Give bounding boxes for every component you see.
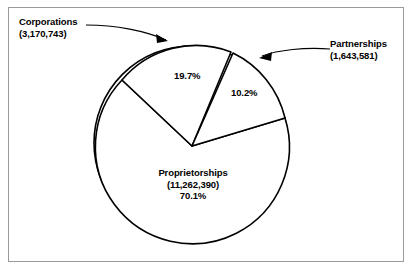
partnerships-count: (1,643,581)	[330, 50, 387, 62]
partnerships-callout: Partnerships (1,643,581)	[330, 38, 387, 61]
corporations-percent-label: 19.7%	[174, 70, 200, 82]
proprietorships-name: Proprietorships	[120, 167, 266, 179]
partnerships-arrowhead-icon	[259, 52, 272, 61]
corporations-arrowhead-icon	[156, 34, 168, 43]
corporations-count: (3,170,743)	[19, 28, 77, 40]
partnerships-leader-line	[262, 48, 330, 56]
corporations-name: Corporations	[19, 16, 77, 28]
pie-chart-figure: Corporations (3,170,743) Partnerships (1…	[0, 0, 414, 271]
proprietorships-label: Proprietorships (11,262,390) 70.1%	[120, 167, 266, 202]
partnerships-percent-label: 10.2%	[231, 87, 257, 99]
corporations-callout: Corporations (3,170,743)	[19, 16, 77, 39]
proprietorships-count: (11,262,390)	[120, 179, 266, 191]
top-crop-bleed	[0, 0, 414, 6]
proprietorships-percent: 70.1%	[120, 190, 266, 202]
corporations-leader-line	[86, 25, 166, 40]
partnerships-name: Partnerships	[330, 38, 387, 50]
